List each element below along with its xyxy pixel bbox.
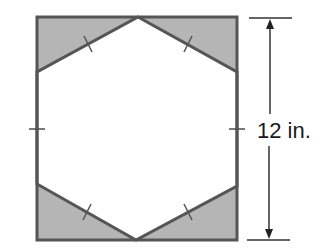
hexagon-in-square-diagram: 12 in. bbox=[0, 0, 331, 252]
arrowhead-up-icon bbox=[266, 19, 274, 29]
shaded-corners bbox=[37, 17, 237, 240]
arrowhead-down-icon bbox=[265, 229, 273, 239]
dimension-label: 12 in. bbox=[257, 118, 311, 143]
congruence-ticks bbox=[29, 36, 245, 220]
